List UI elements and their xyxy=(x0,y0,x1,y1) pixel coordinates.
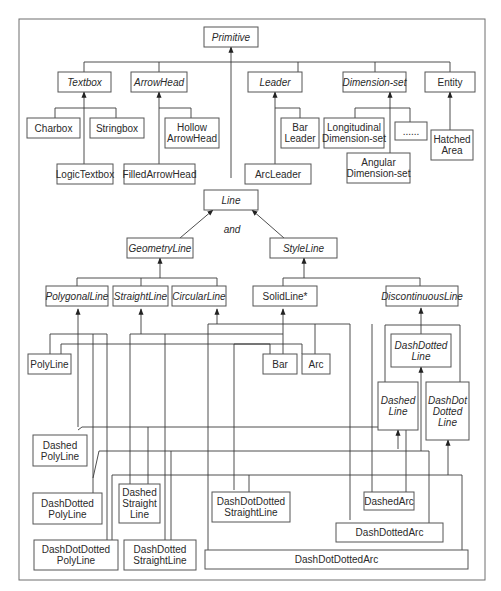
class-node-style-line: StyleLine xyxy=(270,238,337,258)
class-node-dash-dot-dotted-arc: DashDotDottedArc xyxy=(205,550,468,569)
class-node-ellipsis: ...... xyxy=(395,122,427,140)
class-label: CircularLine xyxy=(172,291,226,302)
class-node-discontinuous-line: DiscontinuousLine xyxy=(381,286,463,306)
class-label: DashDotted xyxy=(395,340,448,351)
class-label: Primitive xyxy=(212,32,251,43)
class-label: DashDotted xyxy=(41,498,94,509)
class-label: ...... xyxy=(403,126,420,137)
class-label: SolidLine* xyxy=(262,291,307,302)
class-label: Dotted xyxy=(433,406,463,417)
class-label: Dimension-set xyxy=(347,168,411,179)
class-node-straight-line: StraightLine xyxy=(113,286,168,306)
class-label: Charbox xyxy=(35,123,73,134)
class-node-dash-dotted-arc: DashDottedArc xyxy=(336,523,443,542)
class-label: Dimension-set xyxy=(343,77,408,88)
class-label: Arc xyxy=(309,359,324,370)
class-node-line: Line xyxy=(204,190,258,210)
class-node-and-text: and xyxy=(224,224,241,235)
class-node-circular-line: CircularLine xyxy=(172,286,226,306)
class-node-dashed-line: DashedLine xyxy=(378,382,418,430)
class-label: StyleLine xyxy=(283,243,325,254)
class-node-stringbox: Stringbox xyxy=(90,118,144,138)
class-node-arc: Arc xyxy=(302,354,330,374)
class-label: Area xyxy=(441,145,463,156)
class-node-filled-arrowhead: FilledArrowHead xyxy=(123,164,197,184)
class-label: ArrowHead xyxy=(167,133,217,144)
class-label: StraightLine xyxy=(224,507,278,518)
class-label: StraightLine xyxy=(133,555,187,566)
class-label: Leader xyxy=(259,77,291,88)
class-hierarchy-diagram: PrimitiveTextboxArrowHeadLeaderDimension… xyxy=(0,0,501,591)
class-label: ArrowHead xyxy=(133,77,184,88)
class-node-arc-leader: ArcLeader xyxy=(245,164,311,184)
class-label: Line xyxy=(438,417,457,428)
class-label: Textbox xyxy=(67,77,103,88)
class-label: Longitudinal xyxy=(327,122,381,133)
class-node-longitudinal-dimension-set: LongitudinalDimension-set xyxy=(322,118,386,148)
class-label: PolyLine xyxy=(41,451,80,462)
class-label: Bar xyxy=(292,122,308,133)
class-node-logic-textbox: LogicTextbox xyxy=(56,164,114,184)
class-label: StraightLine xyxy=(114,291,168,302)
class-label: LogicTextbox xyxy=(56,169,114,180)
class-label: GeometryLine xyxy=(129,243,192,254)
class-node-bar: Bar xyxy=(263,354,297,374)
class-node-dash-dotted-polyline: DashDottedPolyLine xyxy=(33,493,102,524)
class-label: Line xyxy=(130,509,149,520)
class-label: Dashed xyxy=(381,395,416,406)
class-node-primitive: Primitive xyxy=(204,27,258,47)
class-node-hollow-arrowhead: HollowArrowHead xyxy=(165,118,219,148)
class-label: ArcLeader xyxy=(255,169,302,180)
class-label: and xyxy=(224,224,241,235)
class-node-arrowhead: ArrowHead xyxy=(131,72,187,92)
class-label: DashedArc xyxy=(364,496,413,507)
class-label: DashDotDottedArc xyxy=(295,554,378,565)
class-node-dashed-straight-line: DashedStraightLine xyxy=(119,484,160,523)
class-label: Line xyxy=(222,195,241,206)
class-node-leader: Leader xyxy=(248,72,302,92)
class-label: PolyLine xyxy=(48,509,87,520)
class-label: DashDotDotted xyxy=(217,496,285,507)
class-node-dash-dotted-straight-line: DashDottedStraightLine xyxy=(124,540,196,570)
class-label: Hatched xyxy=(433,134,470,145)
class-node-solid-line: SolidLine* xyxy=(253,286,317,306)
class-node-bar-leader: BarLeader xyxy=(281,118,319,148)
class-node-dash-dot-dotted-polyline: DashDotDottedPolyLine xyxy=(34,540,118,570)
class-label: PolyLine xyxy=(30,359,69,370)
class-label: DiscontinuousLine xyxy=(381,291,463,302)
class-label: DashDotted xyxy=(134,544,187,555)
class-label: Line xyxy=(389,406,408,417)
class-label: Straight xyxy=(122,498,157,509)
class-label: Dashed xyxy=(43,440,77,451)
class-label: Leader xyxy=(284,133,316,144)
class-label: Line xyxy=(412,351,431,362)
class-label: DashDottedArc xyxy=(356,527,424,538)
class-node-dash-dot-dotted-straight-line: DashDotDottedStraightLine xyxy=(212,492,290,522)
class-node-angular-dimension-set: AngularDimension-set xyxy=(347,153,411,183)
class-node-dash-dotted-line: DashDottedLine xyxy=(391,334,451,367)
class-node-dimension-set: Dimension-set xyxy=(343,72,408,92)
class-label: FilledArrowHead xyxy=(123,169,197,180)
class-node-dashed-arc: DashedArc xyxy=(364,492,414,510)
class-node-charbox: Charbox xyxy=(27,118,80,138)
class-label: PolygonalLine xyxy=(46,291,109,302)
class-label: Stringbox xyxy=(96,123,138,134)
class-label: DashDotDotted xyxy=(42,544,110,555)
class-label: PolyLine xyxy=(57,555,96,566)
class-node-hatched-area: HatchedArea xyxy=(431,130,473,160)
class-label: Entity xyxy=(437,77,462,88)
class-node-polyline: PolyLine xyxy=(28,354,71,374)
class-label: Dashed xyxy=(122,487,156,498)
class-node-dashed-polyline: DashedPolyLine xyxy=(33,435,87,466)
class-node-textbox: Textbox xyxy=(58,72,111,92)
class-node-polygonal-line: PolygonalLine xyxy=(46,286,109,306)
class-node-dash-dot-dotted-line: DashDotDottedLine xyxy=(426,382,469,440)
class-label: DashDot xyxy=(428,395,468,406)
class-node-entity: Entity xyxy=(425,72,475,92)
class-label: Hollow xyxy=(177,122,208,133)
class-label: Dimension-set xyxy=(322,133,386,144)
class-node-geometry-line: GeometryLine xyxy=(127,238,193,258)
class-label: Angular xyxy=(361,157,396,168)
class-label: Bar xyxy=(272,359,288,370)
